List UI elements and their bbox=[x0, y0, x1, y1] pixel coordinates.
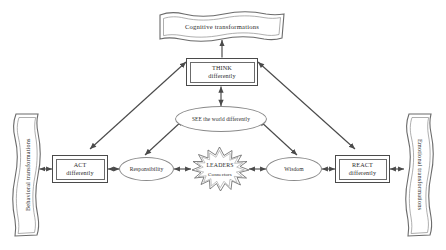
node-act-line2: differently bbox=[66, 169, 93, 177]
node-think-inner-border: THINK differently bbox=[190, 62, 255, 83]
diagram-canvas: Cognitive transformations Behavioral tra… bbox=[0, 0, 446, 250]
node-react-line1: REACT bbox=[352, 161, 373, 169]
starburst-leaders-shape bbox=[192, 147, 249, 191]
arrow-think-to-react bbox=[258, 62, 355, 149]
banner-cognitive-transformations-label: Cognitive transformations bbox=[160, 18, 284, 34]
node-think-line2: differently bbox=[208, 72, 235, 80]
node-react-line2: differently bbox=[349, 169, 376, 177]
node-think-line1: THINK bbox=[212, 64, 232, 72]
arrow-see-to-wisdom bbox=[259, 120, 297, 155]
arrow-act-to-think bbox=[90, 62, 186, 149]
node-see-label: SEE the world differently bbox=[192, 116, 250, 123]
node-see-the-world-differently[interactable]: SEE the world differently bbox=[175, 106, 267, 132]
arrow-responsibility-to-see bbox=[145, 120, 183, 155]
node-responsibility[interactable]: Responsibility bbox=[119, 157, 174, 181]
banner-behavioral-transformations-label: Behavioral transformations bbox=[16, 114, 38, 236]
node-react-inner-border: REACT differently bbox=[339, 159, 387, 180]
node-act-line1: ACT bbox=[74, 161, 87, 169]
node-think-differently[interactable]: THINK differently bbox=[186, 58, 258, 86]
node-act-differently[interactable]: ACT differently bbox=[52, 155, 108, 183]
node-react-differently[interactable]: REACT differently bbox=[335, 155, 390, 183]
node-wisdom[interactable]: Wisdom bbox=[266, 157, 322, 181]
node-wisdom-label: Wisdom bbox=[284, 166, 303, 173]
node-responsibility-label: Responsibility bbox=[130, 166, 164, 173]
node-act-inner-border: ACT differently bbox=[56, 159, 105, 180]
banner-emotional-transformations-label: Emotional transformations bbox=[409, 114, 431, 236]
